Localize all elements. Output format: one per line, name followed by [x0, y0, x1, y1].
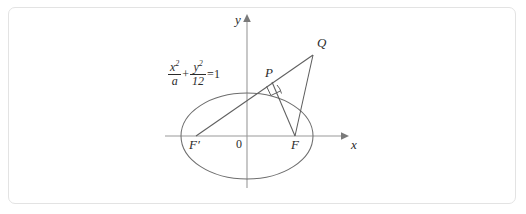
equation-y-denominator: 12 [190, 75, 206, 88]
equation-x-fraction: x2 a [168, 61, 181, 87]
equation-y-numerator: y2 [190, 61, 206, 75]
equation-x-numerator: x2 [168, 61, 181, 75]
point-label-f-prime: F′ [189, 138, 200, 151]
equation-x-exponent: 2 [175, 59, 179, 68]
equation-plus-sign: + [181, 68, 190, 80]
point-label-p: P [265, 66, 273, 79]
point-label-f: F [291, 138, 299, 151]
equation-right-hand-side: 1 [214, 68, 220, 80]
equation-equals-sign: = [206, 68, 214, 80]
x-axis-label: x [351, 138, 357, 151]
segment-p-to-f [272, 82, 295, 136]
equation-y-fraction: y2 12 [190, 61, 206, 87]
ellipse-equation: x2 a + y2 12 =1 [168, 61, 220, 87]
geometry-figure-canvas [0, 0, 526, 214]
origin-label: 0 [236, 138, 242, 150]
y-axis-label: y [235, 13, 241, 26]
figure-page: x2 a + y2 12 =1 F′ F P Q 0 x y [0, 0, 526, 214]
equation-y-exponent: 2 [199, 59, 203, 68]
point-label-q: Q [317, 36, 326, 49]
equation-x-denominator: a [168, 75, 181, 88]
right-angle-marker-at-p [267, 86, 281, 95]
